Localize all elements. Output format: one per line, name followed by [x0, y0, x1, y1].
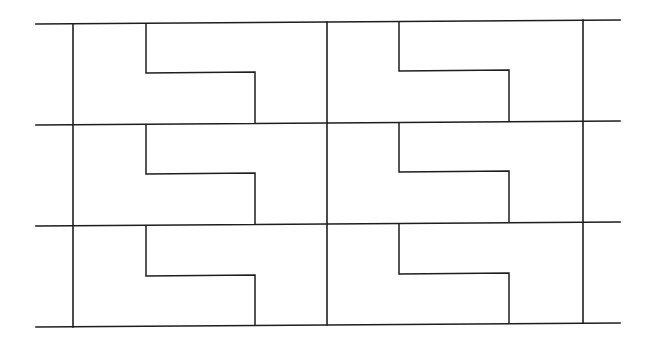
cell-divider-r0-c0 — [146, 23, 255, 124]
horizontal-grid-lines — [36, 20, 620, 327]
grid-line-row-2 — [36, 222, 620, 226]
cell-divider-r2-c1 — [399, 223, 509, 324]
grid-line-top — [36, 20, 620, 24]
tiling-diagram — [0, 0, 645, 344]
cell-divider-r1-c0 — [146, 124, 255, 225]
cell-divider-r0-c1 — [399, 21, 509, 122]
cell-divider-r2-c0 — [146, 225, 255, 326]
cell-divider-r1-c1 — [399, 122, 509, 223]
grid-line-bottom — [36, 323, 620, 327]
grid-line-row-1 — [36, 121, 620, 125]
